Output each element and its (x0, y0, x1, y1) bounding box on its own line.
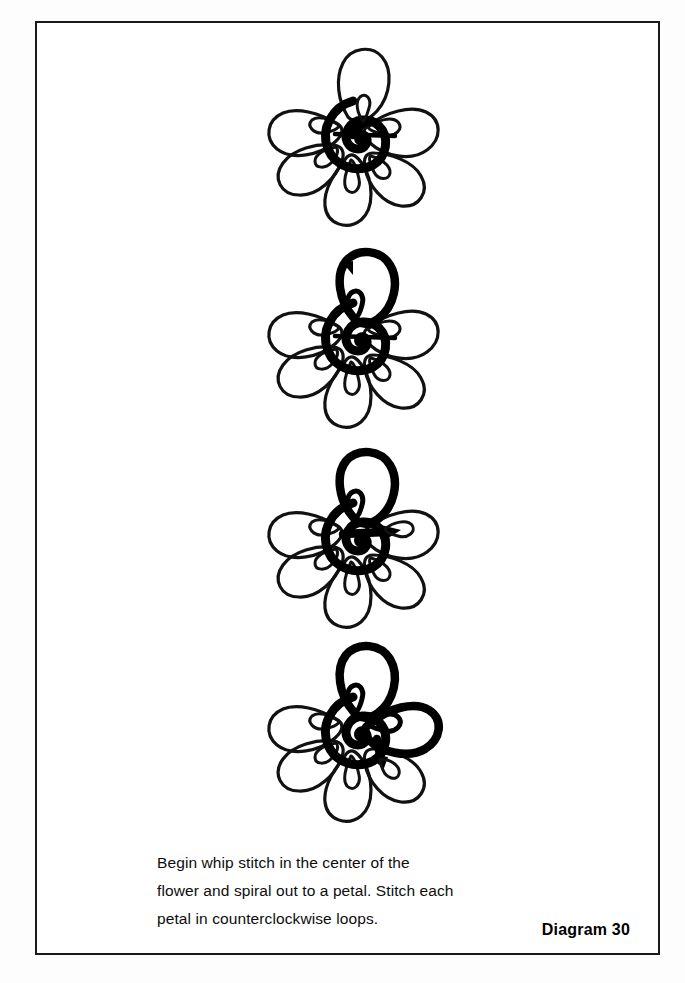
flower-step-3-drawing (235, 441, 465, 646)
flower-step-2-drawing (235, 241, 465, 446)
flower-step-1 (235, 39, 465, 244)
flower-step-4-drawing (235, 635, 465, 840)
completed-petal-top (339, 646, 394, 718)
diagram-page: Begin whip stitch in the center of the f… (0, 0, 685, 983)
flower-step-1-drawing (235, 39, 465, 244)
flower-step-3 (235, 441, 465, 646)
completed-petal-top (339, 452, 394, 524)
figure-stack (37, 23, 662, 813)
flower-step-4 (235, 635, 465, 840)
completed-petal-top (339, 252, 394, 324)
flower-step-2 (235, 241, 465, 446)
caption-text: Begin whip stitch in the center of the f… (157, 849, 597, 933)
diagram-frame: Begin whip stitch in the center of the f… (35, 21, 660, 955)
diagram-label: Diagram 30 (542, 921, 630, 939)
caption-block: Begin whip stitch in the center of the f… (157, 849, 597, 933)
